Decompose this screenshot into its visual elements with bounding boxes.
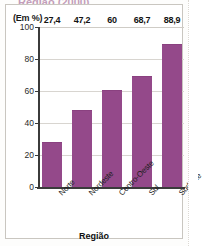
y-tick-label-20: 20 [25, 150, 34, 160]
chart-frame: (Em %) 020406080100 27,447,26068,788,9 N… [5, 4, 183, 239]
bar-value-label: 27,4 [44, 15, 60, 25]
page-edge-strip [188, 0, 198, 246]
plot-area: 020406080100 27,447,26068,788,9 [38, 27, 184, 187]
y-tick-label-40: 40 [25, 118, 34, 128]
x-axis-category-labels: NorteNordesteCentro-OesteSulSudeste [40, 191, 184, 235]
bar[interactable] [162, 44, 182, 187]
y-tick-label-100: 100 [20, 22, 34, 32]
bar[interactable] [72, 110, 92, 187]
bar-slot: 47,2 [72, 27, 92, 187]
bar[interactable] [42, 142, 62, 187]
bar-slot: 27,4 [42, 27, 62, 187]
chart-figure: Região (2000) (Em %) 020406080100 27,447… [0, 0, 198, 246]
y-tick-label-0: 0 [29, 182, 34, 192]
bar-group: 27,447,26068,788,9 [40, 27, 184, 187]
bar-slot: 60 [102, 27, 122, 187]
bar-value-label: 68,7 [134, 15, 150, 25]
bar-slot: 88,9 [162, 27, 182, 187]
bar-value-label: 60 [107, 15, 116, 25]
x-axis-title: Região [6, 231, 182, 241]
bar-value-label: 88,9 [164, 15, 180, 25]
bar-value-label: 47,2 [74, 15, 90, 25]
y-tick-label-60: 60 [25, 86, 34, 96]
y-tick-label-80: 80 [25, 54, 34, 64]
